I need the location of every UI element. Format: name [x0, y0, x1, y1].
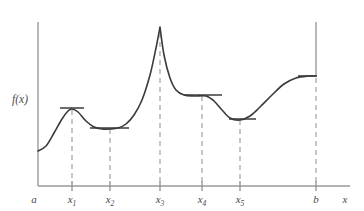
axes-group	[38, 22, 350, 186]
x-tick-label-x5-sub: 5	[241, 199, 245, 208]
x-tick-label-x2: x2	[105, 193, 115, 208]
y-axis-label: f(x)	[12, 93, 28, 106]
x-tick-label-x1: x1	[67, 193, 77, 208]
function-curve-group	[38, 27, 316, 151]
labels-group: f(x) a x1 x2 x3 x4 x5 b x	[12, 93, 348, 208]
x-tick-label-x4: x4	[197, 193, 207, 208]
function-curve	[38, 27, 316, 151]
figure-container: f(x) a x1 x2 x3 x4 x5 b x	[0, 0, 364, 211]
x-tick-label-x1-sub: 1	[73, 199, 77, 208]
x-tick-label-x5: x5	[235, 193, 245, 208]
tangent-segments-group	[60, 76, 317, 128]
x-tick-label-x4-sub: 4	[203, 199, 207, 208]
x-tick-label-x2-sub: 2	[111, 199, 115, 208]
x-tick-label-a: a	[31, 193, 37, 205]
x-axis-label: x	[342, 193, 348, 205]
x-tick-label-x3: x3	[155, 193, 165, 208]
x-tick-label-x3-sub: 3	[160, 199, 165, 208]
dashed-drop-lines-group	[72, 33, 316, 184]
x-tick-label-b: b	[313, 193, 319, 205]
function-graph-figure: f(x) a x1 x2 x3 x4 x5 b x	[0, 0, 364, 211]
